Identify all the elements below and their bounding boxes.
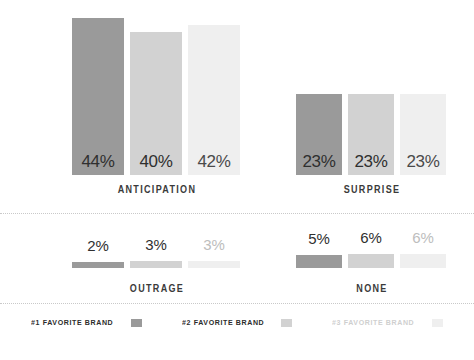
category-label-none: NONE: [310, 282, 435, 294]
bar-column: 44%: [72, 18, 124, 175]
bar-outrage-series2[interactable]: [130, 261, 182, 268]
bar-value-label: 3%: [188, 237, 240, 252]
legend-label: #2 FAVORITE BRAND: [182, 318, 264, 327]
section-divider-top: [0, 213, 474, 214]
bar-column: 3%: [188, 237, 240, 268]
bar-value-label: 23%: [296, 153, 342, 170]
bar-anticipation-series1[interactable]: 44%: [72, 18, 124, 175]
legend-item-series3[interactable]: #3 FAVORITE BRAND: [332, 318, 443, 327]
bar-value-label: 2%: [72, 238, 124, 253]
bar-set-none: 5% 6% 6%: [296, 234, 448, 268]
bar-none-series1[interactable]: [296, 255, 342, 268]
bar-anticipation-series3[interactable]: 42%: [188, 25, 240, 175]
chart-legend: #1 FAVORITE BRAND #2 FAVORITE BRAND #3 F…: [0, 318, 474, 327]
legend-item-series2[interactable]: #2 FAVORITE BRAND: [182, 318, 293, 327]
chart-group-anticipation: 44% 40% 42% ANTICIPATION: [72, 0, 242, 200]
bar-set-surprise: 23% 23% 23%: [296, 0, 448, 175]
bar-anticipation-series2[interactable]: 40%: [130, 32, 182, 175]
chart-group-none: 5% 6% 6% NONE: [296, 216, 448, 304]
bar-column: 40%: [130, 32, 182, 175]
bar-column: 2%: [72, 238, 124, 268]
bar-surprise-series3[interactable]: 23%: [400, 94, 446, 175]
bar-column: 3%: [130, 237, 182, 268]
bar-outrage-series1[interactable]: [72, 262, 124, 268]
bar-column: 23%: [296, 94, 342, 175]
category-label-outrage: OUTRAGE: [87, 282, 226, 294]
bar-column: 6%: [400, 230, 446, 268]
legend-swatch-icon: [432, 319, 443, 327]
bar-set-anticipation: 44% 40% 42%: [72, 0, 242, 175]
bar-surprise-series1[interactable]: 23%: [296, 94, 342, 175]
legend-swatch-icon: [131, 319, 142, 327]
chart-group-surprise: 23% 23% 23% SURPRISE: [296, 0, 448, 200]
legend-item-series1[interactable]: #1 FAVORITE BRAND: [31, 318, 142, 327]
favorite-brand-emotion-chart: 44% 40% 42% ANTICIPATION 23%: [0, 0, 474, 360]
bar-value-label: 5%: [296, 231, 342, 246]
bar-set-outrage: 2% 3% 3%: [72, 234, 242, 268]
bar-value-label: 6%: [348, 230, 394, 245]
bar-column: 42%: [188, 25, 240, 175]
bar-value-label: 44%: [72, 153, 124, 170]
bar-value-label: 42%: [188, 153, 240, 170]
legend-label: #3 FAVORITE BRAND: [332, 318, 414, 327]
bar-column: 5%: [296, 231, 342, 268]
category-label-surprise: SURPRISE: [310, 183, 435, 195]
legend-label: #1 FAVORITE BRAND: [31, 318, 113, 327]
bar-value-label: 6%: [400, 230, 446, 245]
bar-value-label: 23%: [348, 153, 394, 170]
legend-swatch-icon: [281, 319, 292, 327]
bar-surprise-series2[interactable]: 23%: [348, 94, 394, 175]
bar-outrage-series3[interactable]: [188, 261, 240, 268]
category-label-anticipation: ANTICIPATION: [87, 183, 226, 195]
bar-none-series3[interactable]: [400, 254, 446, 268]
bar-value-label: 40%: [130, 153, 182, 170]
bar-none-series2[interactable]: [348, 254, 394, 268]
bar-column: 23%: [400, 94, 446, 175]
bar-column: 23%: [348, 94, 394, 175]
section-divider-bottom: [0, 303, 474, 304]
bar-value-label: 3%: [130, 237, 182, 252]
bar-value-label: 23%: [400, 153, 446, 170]
bar-column: 6%: [348, 230, 394, 268]
chart-group-outrage: 2% 3% 3% OUTRAGE: [72, 216, 242, 304]
